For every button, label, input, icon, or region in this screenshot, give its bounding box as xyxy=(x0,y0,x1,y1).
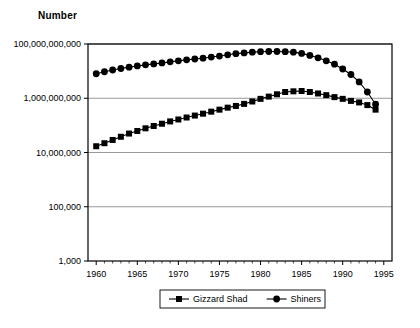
x-tick-label: 1960 xyxy=(86,269,106,279)
x-tick-label: 1970 xyxy=(168,269,188,279)
data-series-layer xyxy=(93,48,379,149)
gridlines xyxy=(84,44,392,261)
legend-label: Gizzard Shad xyxy=(193,294,248,304)
x-tick-label: 1965 xyxy=(127,269,147,279)
x-tick-label: 1975 xyxy=(209,269,229,279)
y-tick-label: 10,000,000 xyxy=(36,148,81,158)
y-axis-tick-labels: 1,000100,00010,000,0001,000,000,000100,0… xyxy=(13,39,81,266)
x-tick-marks xyxy=(96,261,384,265)
x-tick-label: 1990 xyxy=(333,269,353,279)
y-tick-label: 100,000 xyxy=(48,202,81,212)
x-tick-label: 1985 xyxy=(292,269,312,279)
x-tick-label: 1995 xyxy=(374,269,394,279)
legend-label: Shiners xyxy=(291,294,322,304)
y-tick-label: 100,000,000,000 xyxy=(13,39,81,49)
y-tick-label: 1,000,000,000 xyxy=(23,93,81,103)
y-tick-label: 1,000 xyxy=(58,256,81,266)
x-axis-tick-labels: 19601965197019751980198519901995 xyxy=(86,269,394,279)
chart-container: Number 1,000100,00010,000,0001,000,000,0… xyxy=(0,0,420,328)
chart-legend: Gizzard ShadShiners xyxy=(160,290,325,308)
series-gizzard-shad xyxy=(93,88,378,149)
x-tick-label: 1980 xyxy=(251,269,271,279)
line-chart: 1,000100,00010,000,0001,000,000,000100,0… xyxy=(0,0,420,328)
